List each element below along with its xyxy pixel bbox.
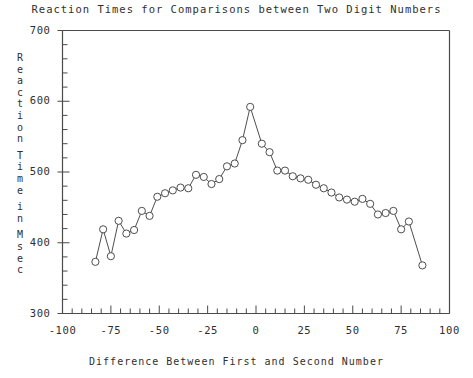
data-point[interactable] [169,187,176,194]
data-point[interactable] [130,226,137,233]
data-point[interactable] [115,217,122,224]
data-point[interactable] [247,103,254,110]
x-tick-label: -50 [139,324,179,336]
data-point[interactable] [312,181,319,188]
x-tick-label: -75 [91,324,131,336]
data-point[interactable] [336,194,343,201]
data-point[interactable] [200,173,207,180]
data-point[interactable] [289,173,296,180]
y-tick-label: 600 [17,94,51,106]
data-point[interactable] [419,262,426,269]
data-point[interactable] [146,212,153,219]
data-point[interactable] [343,196,350,203]
data-point[interactable] [177,184,184,191]
y-tick-label: 700 [17,24,51,36]
data-point[interactable] [231,160,238,167]
data-point[interactable] [138,207,145,214]
data-point[interactable] [192,171,199,178]
y-tick-label: 400 [17,236,51,248]
plot-area [0,0,473,378]
data-point[interactable] [185,185,192,192]
y-tick-label: 300 [17,307,51,319]
data-point[interactable] [281,167,288,174]
y-tick-label: 500 [17,165,51,177]
x-tick-label: -100 [43,324,83,336]
data-point[interactable] [328,189,335,196]
data-point[interactable] [258,140,265,147]
data-point[interactable] [405,218,412,225]
data-point[interactable] [374,211,381,218]
data-point[interactable] [223,163,230,170]
data-point[interactable] [320,185,327,192]
data-point[interactable] [297,175,304,182]
data-point[interactable] [154,193,161,200]
data-point[interactable] [359,195,366,202]
data-point[interactable] [351,198,358,205]
x-tick-label: 75 [381,324,421,336]
x-tick-label: 100 [430,324,470,336]
data-point[interactable] [266,149,273,156]
data-point[interactable] [382,209,389,216]
x-tick-label: 25 [284,324,324,336]
data-line [95,107,422,265]
data-point[interactable] [107,253,114,260]
data-point[interactable] [390,207,397,214]
x-tick-label: 50 [333,324,373,336]
data-point[interactable] [208,180,215,187]
data-point[interactable] [398,226,405,233]
data-point[interactable] [274,167,281,174]
x-tick-label: 0 [236,324,276,336]
data-point[interactable] [239,137,246,144]
data-point[interactable] [216,175,223,182]
chart-root: Reaction Times for Comparisons between T… [0,0,473,378]
data-point[interactable] [367,200,374,207]
x-tick-label: -25 [188,324,228,336]
data-point[interactable] [305,176,312,183]
data-point[interactable] [123,230,130,237]
data-point[interactable] [161,190,168,197]
data-point[interactable] [92,258,99,265]
data-point[interactable] [100,226,107,233]
